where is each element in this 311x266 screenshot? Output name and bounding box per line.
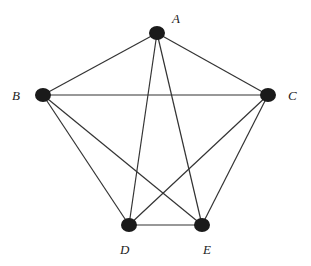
edge-A-B xyxy=(43,33,157,95)
edge-A-E xyxy=(157,33,202,225)
edge-B-E xyxy=(43,95,202,225)
node-label-C: C xyxy=(288,88,297,104)
edge-C-E xyxy=(202,95,268,225)
node-label-D: D xyxy=(120,242,129,258)
node-C xyxy=(260,88,276,102)
graph-diagram: ABCDE xyxy=(0,0,311,266)
edge-B-D xyxy=(43,95,129,225)
node-label-B: B xyxy=(12,88,20,104)
node-D xyxy=(121,218,137,232)
graph-canvas xyxy=(0,0,311,266)
node-B xyxy=(35,88,51,102)
edge-A-D xyxy=(129,33,157,225)
edge-C-D xyxy=(129,95,268,225)
node-label-A: A xyxy=(172,11,180,27)
node-A xyxy=(149,26,165,40)
edge-A-C xyxy=(157,33,268,95)
node-E xyxy=(194,218,210,232)
node-label-E: E xyxy=(203,242,211,258)
